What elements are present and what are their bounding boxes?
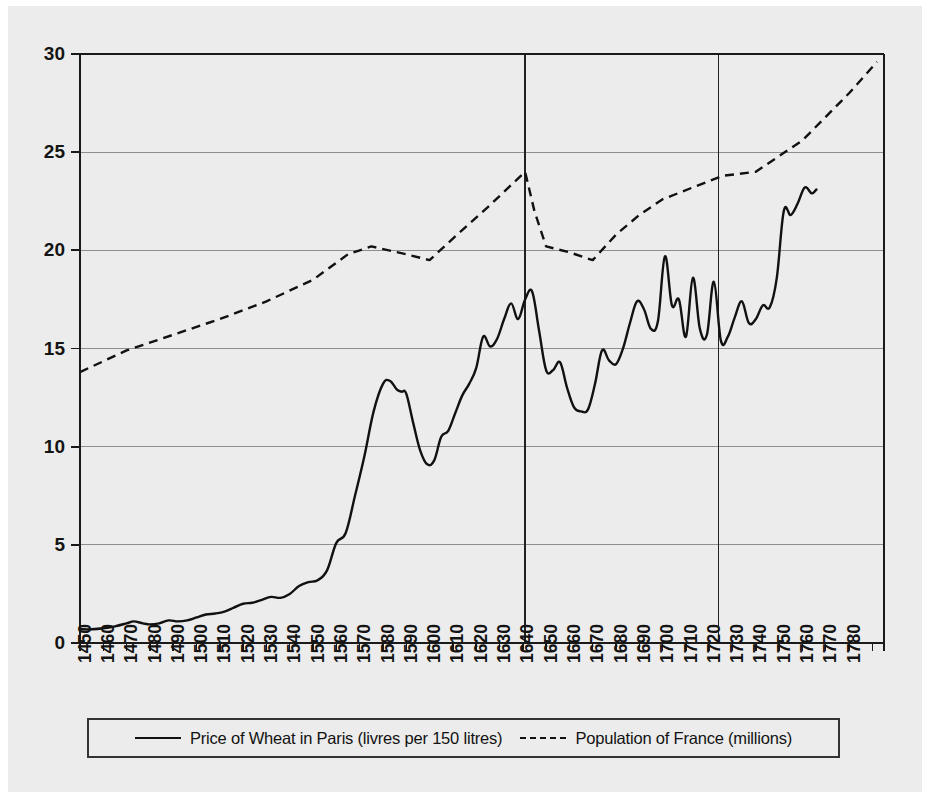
legend-label-wheat-price: Price of Wheat in Paris (livres per 150 … (190, 729, 502, 748)
solid-line-swatch-icon (135, 737, 181, 739)
xtick-label-1730: 1730 (727, 624, 747, 663)
xtick-label-1450: 1450 (75, 624, 95, 663)
xtick-label-1690: 1690 (634, 624, 654, 663)
xtick-label-1460: 1460 (98, 624, 118, 663)
xtick-label-1550: 1550 (308, 624, 328, 663)
xtick-label-1640: 1640 (517, 624, 537, 663)
ytick-label-25: 25 (44, 141, 66, 162)
xtick-label-1590: 1590 (401, 624, 421, 663)
legend-label-population: Population of France (millions) (575, 729, 792, 748)
tick-layer (71, 54, 884, 651)
ytick-label-0: 0 (54, 632, 65, 653)
xtick-label-1600: 1600 (424, 624, 444, 663)
xtick-label-1480: 1480 (145, 624, 165, 663)
xtick-label-1570: 1570 (354, 624, 374, 663)
xtick-label-1490: 1490 (168, 624, 188, 663)
ytick-label-10: 10 (44, 436, 65, 457)
legend-entry-population: Population of France (millions) (520, 729, 792, 748)
series-layer (80, 62, 877, 629)
xtick-label-1520: 1520 (238, 624, 258, 663)
xtick-label-1720: 1720 (704, 624, 724, 663)
series-line-population (80, 62, 877, 372)
xtick-label-1700: 1700 (657, 624, 677, 663)
ytick-label-5: 5 (54, 534, 65, 555)
xtick-label-1530: 1530 (261, 624, 281, 663)
xtick-label-1470: 1470 (121, 624, 141, 663)
ytick-label-20: 20 (44, 239, 65, 260)
xtick-label-1770: 1770 (820, 624, 840, 663)
xtick-label-1560: 1560 (331, 624, 351, 663)
xtick-label-1610: 1610 (447, 624, 467, 663)
line-chart: 051015202530 145014601470148014901500151… (0, 0, 930, 803)
ytick-label-15: 15 (44, 338, 66, 359)
series-line-wheat-price (80, 187, 816, 629)
xtick-label-1740: 1740 (750, 624, 770, 663)
figure-root: 051015202530 145014601470148014901500151… (0, 0, 930, 803)
xtick-label-1710: 1710 (681, 624, 701, 663)
ytick-label-30: 30 (44, 43, 65, 64)
xtick-label-1750: 1750 (774, 624, 794, 663)
xtick-label-1630: 1630 (494, 624, 514, 663)
xtick-label-1780: 1780 (844, 624, 864, 663)
dashed-line-swatch-icon (520, 737, 566, 739)
chart-legend: Price of Wheat in Paris (livres per 150 … (87, 718, 840, 758)
xtick-label-1650: 1650 (541, 624, 561, 663)
xtick-label-1760: 1760 (797, 624, 817, 663)
y-tick-label-layer: 051015202530 (44, 43, 66, 653)
xtick-label-1500: 1500 (191, 624, 211, 663)
xtick-label-1620: 1620 (471, 624, 491, 663)
xtick-label-1580: 1580 (378, 624, 398, 663)
xtick-label-1660: 1660 (564, 624, 584, 663)
xtick-label-1540: 1540 (284, 624, 304, 663)
xtick-label-1680: 1680 (611, 624, 631, 663)
legend-entry-wheat-price: Price of Wheat in Paris (livres per 150 … (135, 729, 502, 748)
xtick-label-1510: 1510 (214, 624, 234, 663)
xtick-label-1670: 1670 (587, 624, 607, 663)
